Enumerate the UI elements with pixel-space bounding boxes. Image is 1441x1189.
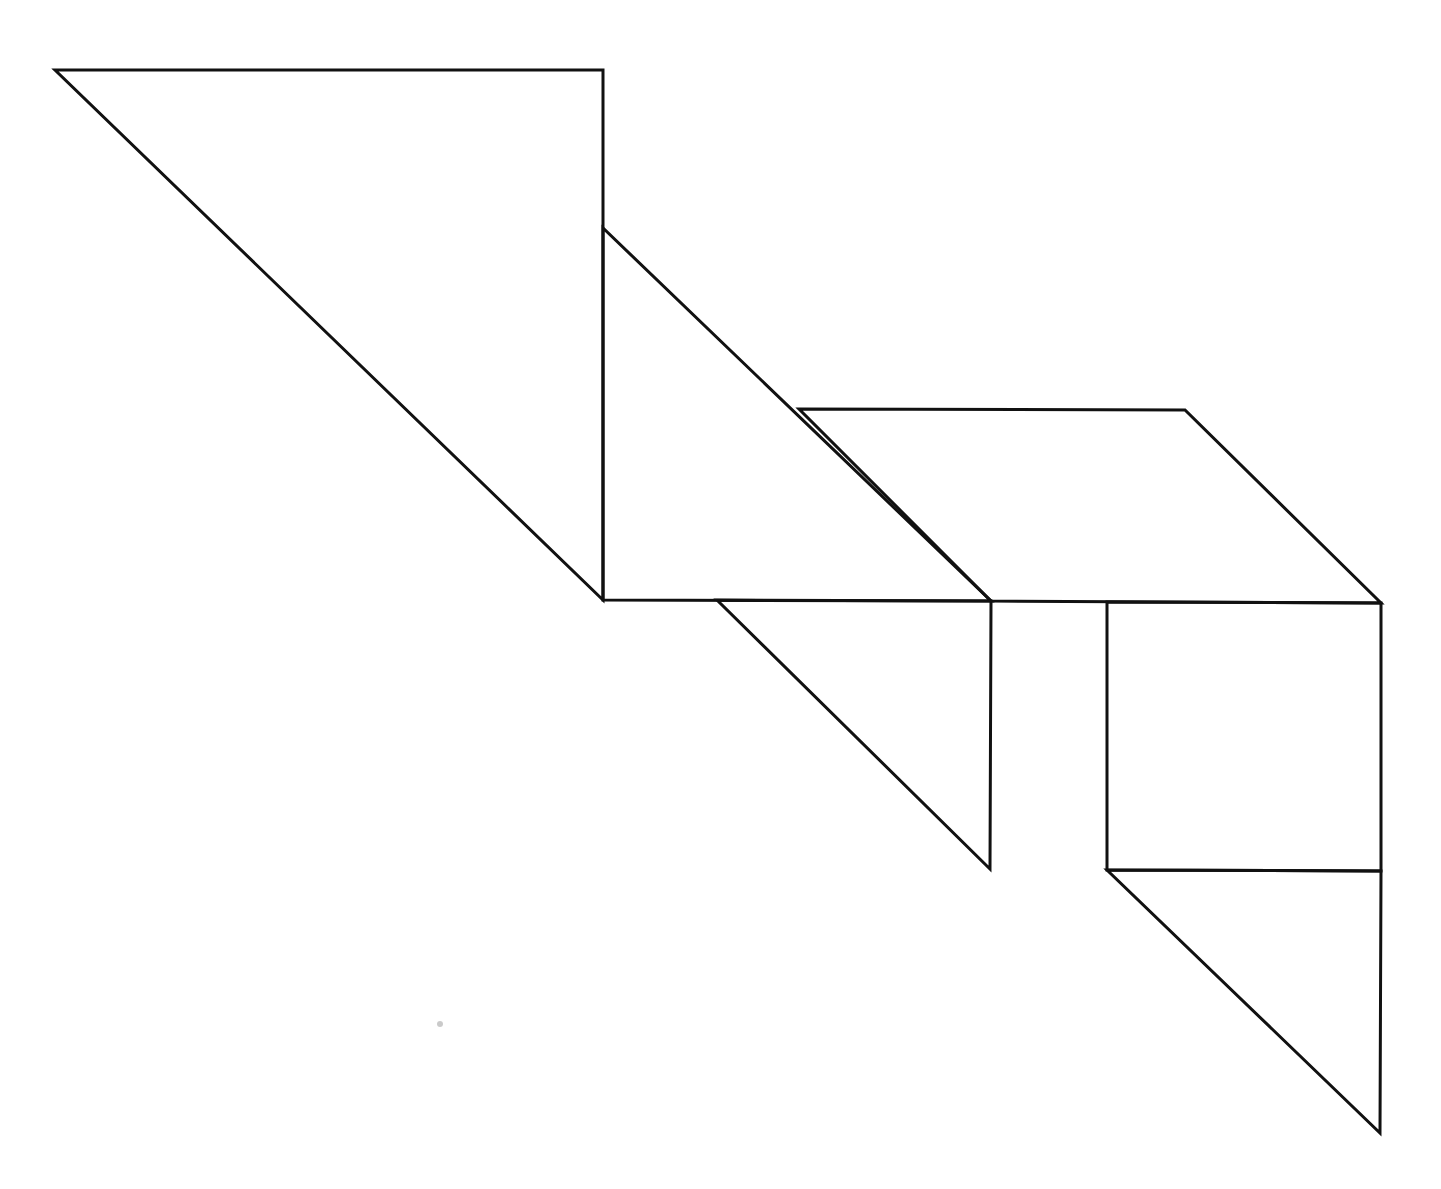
parallelogram-shape xyxy=(799,409,1381,603)
square-shape xyxy=(1107,602,1381,871)
scan-artifacts xyxy=(437,1021,443,1027)
tangram-figure xyxy=(0,0,1441,1189)
large-triangle-shape xyxy=(55,70,603,600)
scan-speck xyxy=(437,1021,443,1027)
small-triangle-bottom-shape xyxy=(1107,870,1381,1133)
medium-triangle-shape xyxy=(603,228,991,601)
small-triangle-left-shape xyxy=(717,600,991,869)
tangram-pieces xyxy=(55,70,1381,1133)
